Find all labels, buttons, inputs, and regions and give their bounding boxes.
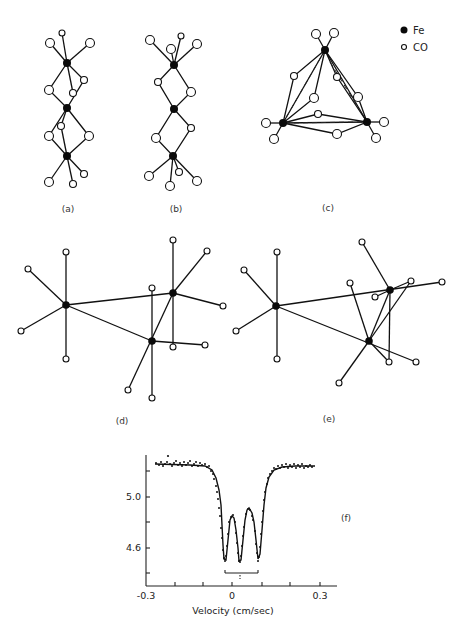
splitting-bracket: [225, 570, 258, 579]
fe-legend-icon: [401, 27, 408, 34]
panel-label-f: (f): [341, 513, 351, 523]
structure-d: [18, 237, 226, 401]
x-tick-label-minus-0.3: -0.3: [137, 590, 156, 601]
legend-fe-label: Fe: [413, 25, 424, 36]
iron-carbonyl-structures-figure: (a) (b): [0, 0, 461, 631]
data-points: [155, 455, 313, 563]
panel-label-e: (e): [323, 414, 336, 424]
y-ticks: [146, 471, 150, 573]
y-tick-label-4.6: 4.6: [126, 542, 141, 553]
x-tick-label-0: 0: [229, 590, 235, 601]
structure-b: [145, 33, 202, 191]
structure-e: [233, 239, 445, 386]
x-tick-label-0.3: 0.3: [312, 590, 327, 601]
x-ticks: [175, 582, 320, 586]
structure-a: [45, 30, 95, 188]
x-axis-label: Velocity (cm/sec): [192, 605, 273, 616]
panel-label-c: (c): [322, 203, 334, 213]
structure-c: [262, 29, 389, 144]
legend-co-label: CO: [413, 42, 428, 53]
fit-curve: [155, 464, 315, 561]
panel-label-a: (a): [62, 204, 75, 214]
panel-label-b: (b): [170, 204, 183, 214]
y-tick-label-5.0: 5.0: [126, 491, 141, 502]
mossbauer-chart: 5.0 4.6 -0.3 0 0.3 Velocity (cm/sec): [126, 455, 351, 616]
legend: Fe CO: [401, 25, 428, 53]
co-legend-icon: [402, 45, 407, 50]
panel-label-d: (d): [116, 416, 129, 426]
